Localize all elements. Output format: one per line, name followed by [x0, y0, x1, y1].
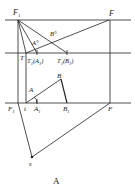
- label-s: s: [29, 160, 32, 167]
- label-f: F: [108, 9, 114, 18]
- label-t-lower: t: [24, 105, 27, 113]
- label-t1-b1: T1(B1): [57, 57, 73, 66]
- figure-caption: A: [53, 176, 60, 186]
- perspective-construction-diagram: F1 F A° B° T T1(A1) T1(B1) B A F1 t A1 B…: [0, 0, 135, 189]
- line-f1-to-t1a1: [18, 20, 37, 53]
- label-a: A: [28, 86, 34, 94]
- label-b: B: [57, 72, 62, 80]
- label-b1: B1: [63, 105, 70, 114]
- line-f1-to-t1b1: [18, 20, 67, 53]
- station-point: [31, 156, 34, 159]
- line-s-to-f: [32, 103, 110, 157]
- line-b-to-b1: [61, 79, 67, 103]
- label-f1-bottom: F1: [7, 105, 15, 114]
- label-f1: F1: [12, 8, 20, 18]
- line-t-to-f: [26, 20, 109, 53]
- label-b0: B°: [50, 30, 57, 37]
- label-f-bottom: F: [107, 105, 113, 113]
- label-t: T: [20, 54, 25, 62]
- arc-a: [34, 97, 37, 103]
- label-t1-a1: T1(A1): [27, 57, 43, 66]
- label-a1: A1: [33, 105, 41, 114]
- label-a0: A°: [31, 39, 39, 46]
